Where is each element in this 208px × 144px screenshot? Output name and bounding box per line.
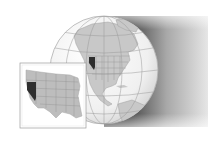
locator-map-figure (0, 0, 208, 144)
locator-map-svg (0, 0, 208, 144)
inset-map (20, 63, 86, 128)
